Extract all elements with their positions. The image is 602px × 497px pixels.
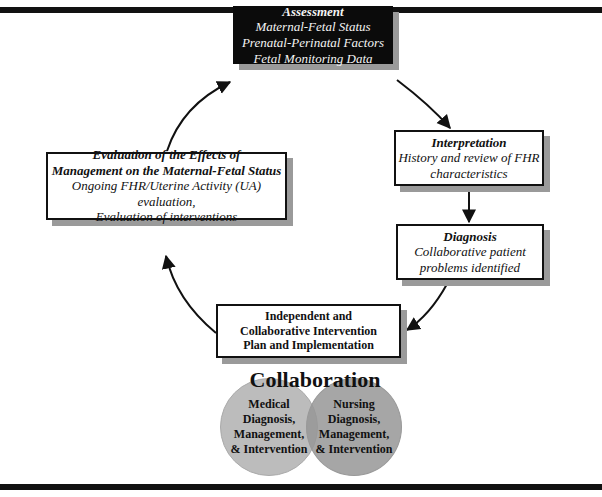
arrow-evaluation-to-assessment xyxy=(167,82,230,151)
evaluation-line: Evaluation of interventions xyxy=(48,209,285,225)
intervention-line: Plan and Implementation xyxy=(218,338,399,352)
medical-line: Medical xyxy=(221,397,317,412)
evaluation-box: Evaluation of the Effects of Management … xyxy=(46,152,287,220)
collaboration-title: Collaboration xyxy=(240,367,390,393)
arrow-intervention-to-evaluation xyxy=(166,256,216,333)
intervention-line: Independent and xyxy=(218,309,399,323)
evaluation-line: Ongoing FHR/Uterine Activity (UA) evalua… xyxy=(48,178,285,209)
nursing-line: Diagnosis, xyxy=(307,412,401,427)
diagnosis-line: Collaborative patient xyxy=(398,244,542,260)
interpretation-line: History and review of FHR xyxy=(396,150,542,166)
diagnosis-line: problems identified xyxy=(398,260,542,276)
arrow-assessment-to-interpretation xyxy=(397,80,450,128)
medical-line: Diagnosis, xyxy=(221,412,317,427)
nursing-line: Management, xyxy=(307,427,401,442)
interpretation-title: Interpretation xyxy=(396,135,542,151)
evaluation-title: Management on the Maternal-Fetal Status xyxy=(48,163,285,179)
assessment-line: Maternal-Fetal Status xyxy=(235,19,391,35)
assessment-box: Assessment Maternal-Fetal Status Prenata… xyxy=(233,6,393,64)
diagnosis-box: Diagnosis Collaborative patient problems… xyxy=(396,224,544,280)
intervention-line: Collaborative Intervention xyxy=(218,324,399,338)
nursing-line: Nursing xyxy=(307,397,401,412)
assessment-line: Prenatal-Perinatal Factors xyxy=(235,35,391,51)
assessment-title: Assessment xyxy=(235,4,391,20)
interpretation-box: Interpretation History and review of FHR… xyxy=(394,130,544,186)
medical-line: & Intervention xyxy=(221,442,317,457)
arrow-diagnosis-to-intervention xyxy=(407,284,447,330)
evaluation-title: Evaluation of the Effects of xyxy=(48,147,285,163)
medical-line: Management, xyxy=(221,427,317,442)
diagnosis-title: Diagnosis xyxy=(398,229,542,245)
intervention-box: Independent and Collaborative Interventi… xyxy=(216,304,401,358)
assessment-line: Fetal Monitoring Data xyxy=(235,51,391,67)
interpretation-line: characteristics xyxy=(396,166,542,182)
nursing-line: & Intervention xyxy=(307,442,401,457)
